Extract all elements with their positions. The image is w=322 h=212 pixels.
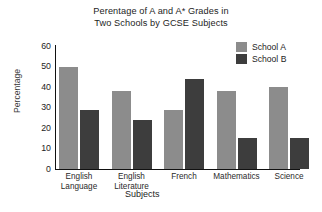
x-axis-category-label: EnglishLanguage (49, 172, 109, 191)
plot-area (56, 46, 320, 169)
y-axis-tick-0: 0 (31, 165, 51, 174)
x-axis-category-label-line: Language (49, 182, 109, 192)
bar-group (112, 46, 152, 169)
bar-group (59, 46, 99, 169)
x-axis-category-label-line: English (49, 172, 109, 182)
bar-school-a (217, 91, 236, 169)
bar-school-b (185, 79, 204, 169)
bar-school-a (112, 91, 131, 169)
bar-school-b (133, 120, 152, 169)
y-axis-tick-50: 50 (31, 62, 51, 71)
y-axis-tick-60: 60 (31, 42, 51, 51)
bar-school-a (59, 67, 78, 170)
x-axis-category-label-line: French (154, 172, 214, 182)
bar-group (164, 46, 204, 169)
y-axis-tick-20: 20 (31, 124, 51, 133)
x-axis-category-label: Science (259, 172, 319, 182)
bar-school-b (290, 138, 309, 169)
y-axis-tick-30: 30 (31, 103, 51, 112)
y-axis-title: Percentage (12, 61, 22, 121)
bar-school-b (238, 138, 257, 169)
x-axis-category-label-line: Literature (102, 182, 162, 192)
x-axis-category-label: French (154, 172, 214, 182)
bar-group (217, 46, 257, 169)
x-axis-category-label-line: Science (259, 172, 319, 182)
y-axis-tick-labels: 6050403020100 (29, 0, 51, 212)
x-axis-category-label-line: Mathematics (207, 172, 267, 182)
bar-school-a (164, 110, 183, 169)
bar-chart: Perentage of A and A* Grades in Two Scho… (0, 0, 322, 212)
bar-school-a (269, 87, 288, 169)
x-axis-category-label-line: English (102, 172, 162, 182)
x-axis-category-label: Mathematics (207, 172, 267, 182)
bar-group (269, 46, 309, 169)
x-axis-category-label: EnglishLiterature (102, 172, 162, 191)
bar-school-b (80, 110, 99, 169)
y-axis-tick-10: 10 (31, 144, 51, 153)
y-axis-tick-40: 40 (31, 83, 51, 92)
